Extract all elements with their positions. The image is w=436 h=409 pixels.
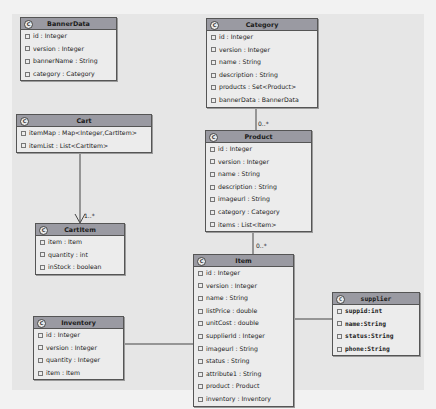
class-header: Csupplier — [333, 293, 419, 305]
field-icon — [210, 210, 215, 215]
field-icon — [198, 359, 203, 364]
field-icon — [211, 98, 216, 103]
class-name: Category — [246, 21, 279, 29]
class-header: CCategory — [207, 19, 317, 31]
field-icon — [210, 147, 215, 152]
attribute: imageurl : String — [194, 343, 293, 356]
class-item[interactable]: CItem id : Integer version : Integer nam… — [193, 254, 294, 407]
field-icon — [198, 372, 203, 377]
attribute: id : Integer — [34, 329, 123, 342]
attribute: bannerName : String — [21, 55, 116, 68]
field-icon — [211, 35, 216, 40]
field-icon — [21, 131, 26, 136]
class-name: CartItem — [64, 226, 96, 234]
class-header: CProduct — [206, 131, 311, 143]
field-icon — [210, 172, 215, 177]
class-name: Product — [244, 133, 272, 141]
class-cart[interactable]: CCart itemMap : Map<Integer,CartItem> it… — [16, 114, 152, 153]
attribute: category : Category — [206, 206, 311, 219]
multiplicity-product-item: 0..* — [256, 242, 267, 249]
field-icon — [25, 72, 30, 77]
attribute: inStock : boolean — [36, 261, 124, 274]
attribute: suppid:int — [333, 305, 419, 318]
field-icon — [40, 265, 45, 270]
attribute: version : Integer — [34, 342, 123, 355]
attribute: itemMap : Map<Integer,CartItem> — [17, 127, 151, 140]
field-icon — [25, 59, 30, 64]
field-icon — [337, 309, 342, 314]
field-icon — [337, 334, 342, 339]
field-icon — [198, 397, 203, 402]
class-header: CCart — [17, 115, 151, 127]
class-name: Inventory — [61, 319, 96, 327]
field-icon — [211, 85, 216, 90]
field-icon — [210, 185, 215, 190]
attribute: description : String — [206, 181, 311, 194]
attribute: supplierId : Integer — [194, 330, 293, 343]
field-icon — [40, 240, 45, 245]
field-icon — [38, 358, 43, 363]
attribute: item : Item — [36, 236, 124, 249]
attribute: inventory : Inventory — [194, 393, 293, 406]
attribute: name : String — [206, 168, 311, 181]
attribute: attribute1 : String — [194, 368, 293, 381]
attribute: items : List<Item> — [206, 219, 311, 232]
field-icon — [198, 309, 203, 314]
class-header: CInventory — [34, 317, 123, 329]
field-icon — [210, 222, 215, 227]
class-supplier[interactable]: Csupplier suppid:int name:String status:… — [332, 292, 420, 356]
field-icon — [40, 252, 45, 257]
attribute: quantity : Integer — [34, 354, 123, 367]
field-icon — [198, 346, 203, 351]
attribute: id : Integer — [206, 143, 311, 156]
field-icon — [337, 321, 342, 326]
field-icon — [211, 73, 216, 78]
field-icon — [38, 345, 43, 350]
field-icon — [210, 197, 215, 202]
attribute: id : Integer — [207, 31, 317, 44]
field-icon — [211, 47, 216, 52]
attribute: version : Integer — [194, 280, 293, 293]
attribute: category : Category — [21, 68, 116, 81]
attribute: version : Integer — [21, 43, 116, 56]
attribute: item : Item — [34, 367, 123, 380]
attribute: product : Product — [194, 380, 293, 393]
field-icon — [198, 283, 203, 288]
multiplicity-category-product: 0..* — [258, 120, 269, 127]
field-icon — [21, 143, 26, 148]
attribute: version : Integer — [206, 156, 311, 169]
class-cartitem[interactable]: CCartItem item : Item quantity : int inS… — [35, 223, 125, 275]
class-icon: C — [209, 133, 218, 142]
field-icon — [198, 334, 203, 339]
class-name: supplier — [361, 295, 392, 303]
attribute: version : Integer — [207, 44, 317, 57]
attribute: unitCost : double — [194, 317, 293, 330]
attribute: products : Set<Product> — [207, 81, 317, 94]
class-icon: C — [336, 295, 345, 304]
attribute: name:String — [333, 318, 419, 331]
class-category[interactable]: CCategory id : Integer version : Integer… — [206, 18, 318, 108]
class-header: CBannerData — [21, 18, 116, 30]
class-header: CItem — [194, 255, 293, 267]
class-name: BannerData — [47, 20, 90, 28]
class-inventory[interactable]: CInventory id : Integer version : Intege… — [33, 316, 124, 380]
class-name: Cart — [76, 117, 91, 125]
class-bannerdata[interactable]: CBannerData id : Integer version : Integ… — [20, 17, 117, 81]
attribute: imageurl : String — [206, 193, 311, 206]
field-icon — [211, 60, 216, 65]
attribute: name : String — [194, 292, 293, 305]
class-icon: C — [197, 257, 206, 266]
field-icon — [337, 347, 342, 352]
attribute: description : String — [207, 69, 317, 82]
field-icon — [38, 371, 43, 376]
class-icon: C — [24, 20, 33, 29]
attribute: listPrice : double — [194, 305, 293, 318]
attribute: quantity : int — [36, 249, 124, 262]
class-icon: C — [210, 21, 219, 30]
field-icon — [198, 296, 203, 301]
class-product[interactable]: CProduct id : Integer version : Integer … — [205, 130, 312, 232]
attribute: status : String — [194, 355, 293, 368]
attribute: status:String — [333, 330, 419, 343]
attribute: bannerData : BannerData — [207, 94, 317, 107]
class-header: CCartItem — [36, 224, 124, 236]
